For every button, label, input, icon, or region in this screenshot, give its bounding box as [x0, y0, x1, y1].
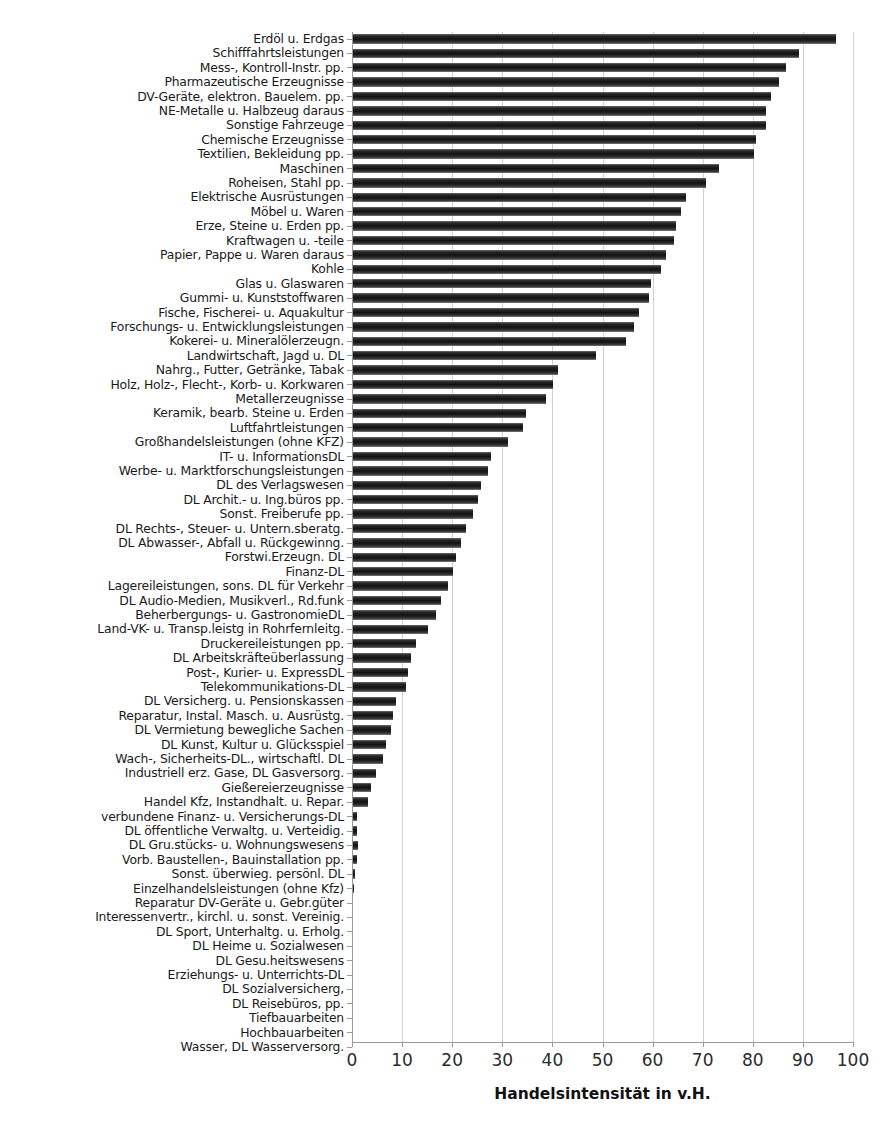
- chart-row: Papier, Pappe u. Waren daraus: [0, 248, 882, 262]
- chart-row: Gummi- u. Kunststoffwaren: [0, 291, 882, 305]
- y-axis-tick: [347, 442, 352, 443]
- y-axis-tick: [347, 571, 352, 572]
- x-axis-tick-mark-40: [552, 1042, 553, 1047]
- bar: [353, 567, 453, 576]
- bar: [353, 293, 649, 302]
- category-label: Roheisen, Stahl pp.: [0, 176, 344, 190]
- y-axis-tick: [347, 787, 352, 788]
- bar: [353, 625, 428, 634]
- bar: [353, 725, 391, 734]
- chart-row: Erze, Steine u. Erden pp.: [0, 219, 882, 233]
- category-label: Forschungs- u. Entwicklungsleistungen: [0, 320, 344, 334]
- category-label: DL Audio-Medien, Musikverl., Rd.funk: [0, 594, 344, 608]
- bar: [353, 236, 674, 245]
- chart-row: Schifffahrtsleistungen: [0, 46, 882, 60]
- bar: [353, 265, 661, 274]
- y-axis-tick: [347, 197, 352, 198]
- bar: [353, 639, 416, 648]
- category-label: Reparatur, Instal. Masch. u. Ausrüstg.: [0, 709, 344, 723]
- category-label: DL Rechts-, Steuer- u. Untern.sberatg.: [0, 522, 344, 536]
- chart-row: DL Rechts-, Steuer- u. Untern.sberatg.: [0, 522, 882, 536]
- bar: [353, 581, 448, 590]
- y-axis-tick: [347, 1032, 352, 1033]
- bar: [353, 711, 393, 720]
- y-axis-tick: [347, 355, 352, 356]
- y-axis-tick: [347, 312, 352, 313]
- chart-row: Maschinen: [0, 162, 882, 176]
- category-label: Nahrg., Futter, Getränke, Tabak: [0, 363, 344, 377]
- chart-row: Fische, Fischerei- u. Aquakultur: [0, 306, 882, 320]
- category-label: DL Sozialversicherg,: [0, 982, 344, 996]
- chart-row: DL Sport, Unterhaltg. u. Erholg.: [0, 925, 882, 939]
- chart-row: Textilien, Bekleidung pp.: [0, 147, 882, 161]
- chart-row: Chemische Erzeugnisse: [0, 133, 882, 147]
- x-axis-tick-mark-30: [502, 1042, 503, 1047]
- chart-row: Keramik, bearb. Steine u. Erden: [0, 406, 882, 420]
- category-label: Hochbauarbeiten: [0, 1026, 344, 1040]
- bar: [353, 121, 766, 130]
- category-label: Sonstige Fahrzeuge: [0, 118, 344, 132]
- category-label: Holz, Holz-, Flecht-, Korb- u. Korkwaren: [0, 378, 344, 392]
- category-label: Druckereileistungen pp.: [0, 637, 344, 651]
- category-label: DL Arbeitskräfteüberlassung: [0, 651, 344, 665]
- bar: [353, 466, 488, 475]
- chart-row: DL Gru.stücks- u. Wohnungswesens: [0, 838, 882, 852]
- chart-row: DL des Verlagswesen: [0, 478, 882, 492]
- y-axis-tick: [347, 859, 352, 860]
- bar: [353, 394, 546, 403]
- chart-row: Kokerei- u. Mineralölerzeugn.: [0, 334, 882, 348]
- chart-row: Gießereierzeugnisse: [0, 781, 882, 795]
- x-axis-tick-label-50: 50: [592, 1050, 614, 1070]
- category-label: Interessenvertr., kirchl. u. sonst. Vere…: [0, 910, 344, 924]
- chart-row: Tiefbauarbeiten: [0, 1011, 882, 1025]
- bar: [353, 769, 376, 778]
- bar: [353, 783, 371, 792]
- category-label: Fische, Fischerei- u. Aquakultur: [0, 306, 344, 320]
- bar: [353, 826, 357, 835]
- y-axis-tick: [347, 543, 352, 544]
- y-axis-tick: [347, 456, 352, 457]
- chart-row: Wach-, Sicherheits-DL., wirtschaftl. DL: [0, 752, 882, 766]
- bar: [353, 164, 719, 173]
- chart-row: DL öffentliche Verwaltg. u. Verteidig.: [0, 824, 882, 838]
- bar: [353, 250, 666, 259]
- category-label: Papier, Pappe u. Waren daraus: [0, 248, 344, 262]
- category-label: Gießereierzeugnisse: [0, 781, 344, 795]
- y-axis-tick: [347, 874, 352, 875]
- chart-row: DL Sozialversicherg,: [0, 982, 882, 996]
- chart-row: DL Versicherg. u. Pensionskassen: [0, 694, 882, 708]
- chart-row: verbundene Finanz- u. Versicherungs-DL: [0, 810, 882, 824]
- y-axis-tick: [347, 960, 352, 961]
- y-axis-tick: [347, 427, 352, 428]
- y-axis-tick: [347, 615, 352, 616]
- y-axis-tick: [347, 384, 352, 385]
- y-axis-tick: [347, 816, 352, 817]
- y-axis-tick: [347, 53, 352, 54]
- y-axis-tick: [347, 672, 352, 673]
- category-label: DL Heime u. Sozialwesen: [0, 939, 344, 953]
- y-axis-tick: [347, 643, 352, 644]
- category-label: NE-Metalle u. Halbzeug daraus: [0, 104, 344, 118]
- y-axis-tick: [347, 255, 352, 256]
- category-label: Werbe- u. Marktforschungsleistungen: [0, 464, 344, 478]
- x-axis-tick-mark-60: [653, 1042, 654, 1047]
- bar: [353, 596, 441, 605]
- category-label: DL Versicherg. u. Pensionskassen: [0, 694, 344, 708]
- bar: [353, 740, 386, 749]
- y-axis-tick: [347, 845, 352, 846]
- category-label: Tiefbauarbeiten: [0, 1011, 344, 1025]
- bar: [353, 49, 799, 58]
- category-label: Sonst. überwieg. persönl. DL: [0, 867, 344, 881]
- chart-row: DL Gesu.heitswesens: [0, 954, 882, 968]
- category-label: Möbel u. Waren: [0, 205, 344, 219]
- chart-row: Metallerzeugnisse: [0, 392, 882, 406]
- y-axis-tick: [347, 327, 352, 328]
- category-label: Handel Kfz, Instandhalt. u. Repar.: [0, 795, 344, 809]
- y-axis-tick: [347, 111, 352, 112]
- bar: [353, 308, 639, 317]
- bar: [353, 437, 508, 446]
- y-axis-tick: [347, 600, 352, 601]
- category-label: Luftfahrtleistungen: [0, 421, 344, 435]
- y-axis-tick: [347, 399, 352, 400]
- category-label: DL Reisebüros, pp.: [0, 997, 344, 1011]
